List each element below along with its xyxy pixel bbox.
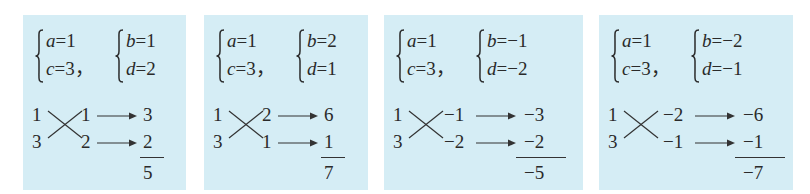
product-bottom: 1: [324, 131, 334, 153]
product-bottom: 2: [143, 131, 153, 153]
arrow-right-icon: [278, 138, 318, 148]
equation-d: d=2: [126, 57, 156, 81]
product-sum: −7: [743, 162, 763, 184]
cross-left-top: 1: [608, 104, 618, 126]
product-top: −3: [524, 104, 544, 126]
left-brace-icon: [611, 29, 620, 83]
equation-c: c=3，: [622, 57, 670, 81]
cross-right-top: −2: [663, 104, 683, 126]
equation-a: a=1: [46, 29, 76, 53]
cross-left-bottom: 3: [32, 131, 42, 153]
arrow-right-icon: [695, 111, 735, 121]
cross-left-top: 1: [213, 104, 223, 126]
left-brace-icon: [691, 29, 700, 83]
equation-a: a=1: [227, 29, 257, 53]
cross-right-bottom: 1: [262, 131, 272, 153]
cross-lines-icon: [228, 108, 264, 140]
equation-c: c=3，: [46, 57, 94, 81]
arrow-right-icon: [278, 111, 318, 121]
arrow-right-icon: [476, 111, 516, 121]
cross-multiplication-panel-3: a=1 c=3， b=−1 d=−2 1 3 −1 −2 −3 −2 −5: [384, 15, 583, 190]
arrow-right-icon: [97, 111, 137, 121]
cross-lines-icon: [47, 108, 83, 140]
equation-c: c=3，: [227, 57, 275, 81]
cross-right-bottom: −2: [444, 131, 464, 153]
arrow-right-icon: [476, 138, 516, 148]
cross-right-bottom: −1: [663, 131, 683, 153]
equation-b: b=−1: [487, 29, 527, 53]
equation-b: b=−2: [702, 29, 742, 53]
cross-right-top: −1: [444, 104, 464, 126]
cross-multiplication-panel-2: a=1 c=3， b=2 d=1 1 3 2 1 6 1 7: [204, 15, 368, 190]
left-brace-icon: [35, 29, 44, 83]
cross-right-top: 1: [81, 104, 91, 126]
product-bottom: −1: [743, 131, 763, 153]
cross-right-top: 2: [262, 104, 272, 126]
product-top: 3: [143, 104, 153, 126]
left-brace-icon: [115, 29, 124, 83]
left-brace-icon: [396, 29, 405, 83]
equation-b: b=1: [126, 29, 156, 53]
equation-a: a=1: [407, 29, 437, 53]
equation-a: a=1: [622, 29, 652, 53]
cross-left-bottom: 3: [213, 131, 223, 153]
sum-line: [516, 157, 566, 158]
cross-left-top: 1: [393, 104, 403, 126]
cross-left-bottom: 3: [608, 131, 618, 153]
product-top: 6: [324, 104, 334, 126]
cross-multiplication-panel-4: a=1 c=3， b=−2 d=−1 1 3 −2 −1 −6 −1 −7: [599, 15, 793, 190]
left-brace-icon: [296, 29, 305, 83]
product-sum: −5: [524, 162, 544, 184]
equation-d: d=1: [307, 57, 337, 81]
sum-line: [735, 157, 785, 158]
cross-left-top: 1: [32, 104, 42, 126]
sum-line: [321, 157, 345, 158]
cross-right-bottom: 2: [81, 131, 91, 153]
product-bottom: −2: [524, 131, 544, 153]
cross-lines-icon: [623, 108, 659, 140]
arrow-right-icon: [695, 138, 735, 148]
left-brace-icon: [476, 29, 485, 83]
cross-multiplication-panel-1: a=1 c=3， b=1 d=2 1 3 1 2 3 2 5: [23, 15, 186, 190]
equation-d: d=−1: [702, 57, 742, 81]
product-sum: 5: [143, 162, 153, 184]
equation-d: d=−2: [487, 57, 527, 81]
product-sum: 7: [324, 162, 334, 184]
cross-left-bottom: 3: [393, 131, 403, 153]
equation-c: c=3，: [407, 57, 455, 81]
arrow-right-icon: [97, 138, 137, 148]
equation-b: b=2: [307, 29, 337, 53]
cross-lines-icon: [408, 108, 444, 140]
left-brace-icon: [216, 29, 225, 83]
sum-line: [140, 157, 164, 158]
product-top: −6: [743, 104, 763, 126]
